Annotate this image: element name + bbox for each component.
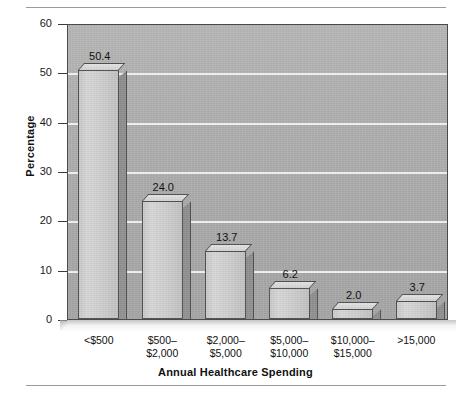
y-axis-tick-label: 60	[12, 18, 52, 29]
y-axis-tick	[58, 172, 67, 173]
bar-top-face	[205, 244, 252, 251]
y-axis-tick	[58, 221, 67, 222]
bar-top-face	[142, 194, 189, 201]
plot-area	[67, 24, 448, 320]
bar[interactable]	[78, 70, 119, 319]
bar[interactable]	[269, 288, 310, 319]
chart-figure: Percentage 0102030405060 <$500$500– $2,0…	[0, 0, 471, 394]
bar-value-label: 24.0	[135, 182, 192, 193]
bar[interactable]	[396, 301, 437, 319]
y-axis-tick-label: 40	[12, 117, 52, 128]
bar-top-face	[396, 294, 443, 301]
bar-front-face	[142, 201, 183, 319]
bar-side-face	[437, 301, 445, 320]
x-axis-category-label: >15,000	[377, 334, 457, 347]
bar-value-label: 3.7	[389, 282, 446, 293]
bar-top-face	[269, 281, 316, 288]
y-axis-title: Percentage	[24, 96, 36, 196]
bar[interactable]	[205, 251, 246, 319]
bar-front-face	[205, 251, 246, 319]
y-axis-tick-label: 30	[12, 166, 52, 177]
y-axis-tick	[58, 271, 67, 272]
bar-top-face	[78, 63, 125, 70]
bar-front-face	[396, 301, 437, 319]
bar-side-face	[119, 71, 127, 320]
bar-front-face	[78, 70, 119, 319]
bar[interactable]	[332, 309, 373, 319]
y-axis-tick-label: 10	[12, 265, 52, 276]
bar[interactable]	[142, 201, 183, 319]
plot-floor-bevel	[60, 320, 68, 330]
y-axis-tick	[58, 24, 67, 25]
top-divider-rule	[26, 7, 446, 8]
bar-value-label: 2.0	[325, 290, 382, 301]
bar-value-label: 13.7	[198, 232, 255, 243]
x-axis-title: Annual Healthcare Spending	[0, 366, 471, 378]
plot-floor-shadow	[60, 320, 456, 332]
y-axis-tick-label: 20	[12, 215, 52, 226]
bottom-divider-rule	[26, 385, 446, 386]
bar-front-face	[269, 288, 310, 319]
y-axis-tick-label: 50	[12, 67, 52, 78]
bar-side-face	[183, 201, 191, 320]
bar-value-label: 50.4	[71, 51, 128, 62]
bar-side-face	[310, 289, 318, 320]
bar-front-face	[332, 309, 373, 319]
bar-side-face	[246, 252, 254, 320]
y-axis-tick-label: 0	[12, 314, 52, 325]
y-axis-tick	[58, 73, 67, 74]
y-axis-tick	[58, 123, 67, 124]
bar-side-face	[373, 309, 381, 320]
bar-top-face	[332, 302, 379, 309]
bar-value-label: 6.2	[262, 269, 319, 280]
